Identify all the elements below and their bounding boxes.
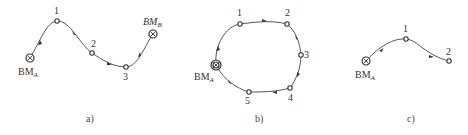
panel-b: BMA 1 2 3 4 5 b) xyxy=(194,7,309,125)
station-marker-icon xyxy=(285,22,289,26)
station-label: 4 xyxy=(288,92,293,103)
direction-arrow-icon xyxy=(429,55,434,58)
station-label: 3 xyxy=(123,71,128,82)
station-label: 2 xyxy=(285,7,290,18)
station-label: 3 xyxy=(304,49,309,60)
direction-arrow-icon xyxy=(216,46,220,51)
benchmark-label-b-start: BMA xyxy=(194,71,215,84)
station-label: 1 xyxy=(403,23,408,34)
direction-arrow-icon xyxy=(138,52,141,57)
panel-c: BMA 1 2 c) xyxy=(355,23,451,125)
station-marker-icon xyxy=(124,65,128,69)
route-c-line xyxy=(366,39,449,61)
station-marker-icon xyxy=(247,90,251,94)
benchmark-label-a-start: BMA xyxy=(18,66,39,79)
station-marker-icon xyxy=(55,19,59,23)
benchmark-icon xyxy=(211,60,221,70)
panel-caption-b: b) xyxy=(255,113,263,125)
direction-arrow-icon xyxy=(72,31,76,35)
station-label: 5 xyxy=(245,95,250,106)
leveling-routes-diagram: BMA 1 2 3 BMB a) BMA xyxy=(0,0,468,135)
panel-a: BMA 1 2 3 BMB a) xyxy=(18,5,162,125)
benchmark-icon xyxy=(26,54,34,62)
station-marker-icon xyxy=(299,53,303,57)
station-marker-icon xyxy=(404,37,408,41)
benchmark-label-a-end: BMB xyxy=(143,16,162,29)
station-marker-icon xyxy=(90,51,94,55)
panel-caption-a: a) xyxy=(86,113,94,125)
station-marker-icon xyxy=(447,59,451,63)
benchmark-label-c-start: BMA xyxy=(355,69,376,82)
station-label: 2 xyxy=(446,46,451,57)
benchmark-icon xyxy=(362,57,370,65)
station-label: 1 xyxy=(54,5,59,16)
benchmark-icon xyxy=(149,30,157,38)
station-label: 1 xyxy=(237,7,242,18)
station-marker-icon xyxy=(288,86,292,90)
station-marker-icon xyxy=(238,22,242,26)
panel-caption-c: c) xyxy=(407,113,415,125)
station-label: 2 xyxy=(91,38,96,49)
